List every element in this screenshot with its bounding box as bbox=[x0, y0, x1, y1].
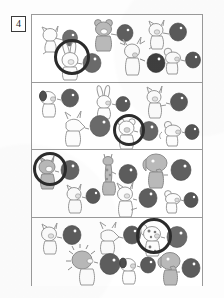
worksheet-page: 4 bbox=[0, 0, 224, 298]
panel-row-2[interactable] bbox=[32, 83, 202, 150]
row2-item-wolf[interactable] bbox=[60, 109, 118, 147]
panels-frame bbox=[31, 14, 203, 286]
panel-row-1[interactable] bbox=[32, 15, 202, 83]
row1-item-mouse[interactable] bbox=[160, 45, 202, 77]
row3-item-mouse[interactable] bbox=[160, 188, 202, 216]
row2-item-mouse[interactable] bbox=[159, 119, 202, 149]
row1-item-rabbit[interactable] bbox=[54, 41, 108, 81]
exercise-number: 4 bbox=[11, 16, 26, 32]
panel-row-4[interactable] bbox=[32, 218, 202, 286]
row3-item-cat-2[interactable] bbox=[112, 180, 164, 218]
panel-row-3[interactable] bbox=[32, 150, 202, 218]
row3-item-cat[interactable] bbox=[62, 182, 110, 216]
row4-item-elephant[interactable] bbox=[156, 250, 202, 286]
